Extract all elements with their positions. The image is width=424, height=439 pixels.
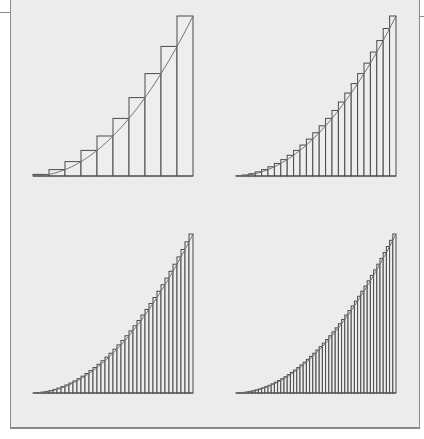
riemann-rectangle [393, 234, 396, 393]
riemann-rectangle [153, 298, 157, 394]
riemann-rectangle [313, 133, 319, 176]
riemann-rectangle [377, 41, 383, 176]
riemann-rectangle [81, 150, 97, 176]
riemann-rectangle [105, 357, 109, 393]
riemann-rectangle [145, 74, 161, 176]
plot-bottom-left [33, 234, 193, 393]
riemann-rectangle [364, 63, 370, 176]
riemann-rectangle [169, 271, 173, 393]
plot-top-left [33, 16, 193, 176]
riemann-rectangle [137, 321, 141, 393]
riemann-rectangle [125, 336, 129, 393]
riemann-rectangle [97, 136, 113, 176]
riemann-rectangle [173, 264, 177, 393]
riemann-rectangle [181, 250, 185, 394]
riemann-rectangle [390, 16, 396, 176]
riemann-rectangle [145, 309, 149, 393]
riemann-rectangle [326, 118, 332, 176]
riemann-rectangle [89, 371, 93, 393]
riemann-rectangle [101, 361, 105, 393]
plot-top-right [236, 16, 396, 176]
riemann-rectangle [351, 84, 357, 176]
riemann-rectangle [161, 285, 165, 393]
riemann-rectangle [185, 242, 189, 393]
riemann-rectangle [157, 291, 161, 393]
riemann-rectangle [121, 340, 125, 393]
riemann-rectangle [332, 110, 338, 176]
riemann-rectangle [189, 234, 193, 393]
riemann-rectangle [149, 304, 153, 393]
riemann-rectangle [161, 46, 177, 176]
riemann-rectangle [93, 368, 97, 393]
plot-bottom-right [236, 234, 396, 393]
riemann-rectangle [370, 52, 376, 176]
riemann-rectangle [113, 349, 117, 393]
riemann-rectangle [319, 126, 325, 176]
riemann-rectangle [109, 353, 113, 393]
riemann-rectangle [117, 345, 121, 393]
riemann-rectangle [383, 29, 389, 176]
riemann-rectangle [133, 326, 137, 393]
riemann-rectangle [97, 364, 101, 393]
riemann-rectangle [129, 98, 145, 176]
riemann-rectangle [177, 257, 181, 393]
riemann-sum-figure [0, 0, 424, 439]
riemann-rectangle [129, 331, 133, 393]
riemann-rectangle [141, 315, 145, 393]
riemann-rectangle [165, 278, 169, 393]
riemann-rectangle [85, 374, 89, 393]
riemann-rectangle [358, 74, 364, 176]
riemann-rectangle [177, 16, 193, 176]
riemann-rectangle [287, 155, 293, 176]
riemann-rectangle [338, 102, 344, 176]
riemann-rectangle [345, 93, 351, 176]
